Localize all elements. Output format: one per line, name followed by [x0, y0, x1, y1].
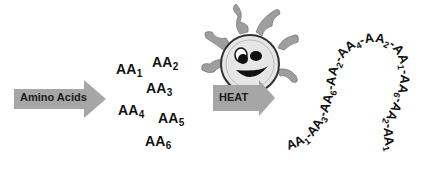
protein-chain: AA1-AA3-AA6-AA2-AA4-AA2-AA1-AA6-AA2-AA1: [280, 0, 424, 196]
amino-acid-3: AA3: [146, 80, 172, 98]
amino-acid-5: AA5: [158, 110, 184, 128]
chain-sequence-text: AA1-AA3-AA6-AA2-AA4-AA2-AA1-AA6-AA2-AA1: [284, 30, 413, 153]
amino-acid-6: AA6: [145, 133, 171, 151]
heat-label: HEAT: [219, 91, 248, 103]
amino-acid-4: AA4: [118, 102, 144, 120]
amino-acids-label: Amino Acids: [20, 91, 87, 103]
amino-acid-1: AA1: [116, 61, 142, 79]
amino-acid-2: AA2: [152, 54, 178, 72]
